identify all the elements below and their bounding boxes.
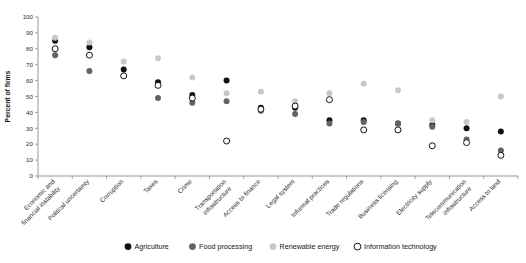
legend-marker (125, 243, 132, 250)
data-point (361, 127, 367, 133)
y-tick-label: 60 (26, 77, 33, 84)
data-point (292, 111, 298, 117)
data-point (189, 95, 195, 101)
y-axis-title: Percent of firms (4, 70, 11, 122)
data-point (52, 46, 58, 52)
y-tick-label: 70 (26, 61, 33, 68)
legend-label: Agriculture (135, 242, 169, 251)
data-point (498, 152, 504, 158)
data-point (464, 140, 470, 146)
x-category-label: Legal system (264, 178, 296, 210)
y-tick-label: 90 (26, 29, 33, 36)
series-information-technology (52, 46, 504, 159)
legend-marker (270, 243, 277, 250)
y-tick-label: 30 (26, 125, 33, 132)
data-point (429, 124, 435, 130)
data-point (326, 90, 332, 96)
x-category-label: Crime (176, 177, 193, 194)
chart-canvas: 0102030405060708090100Percent of firmsEc… (0, 0, 526, 263)
data-point (224, 78, 230, 84)
x-category-label: Corruption (98, 177, 125, 204)
data-point (258, 89, 264, 95)
x-category-label: Access to finance (221, 177, 262, 218)
data-point (326, 121, 332, 127)
data-point (121, 66, 127, 72)
y-tick-label: 40 (26, 109, 33, 116)
legend-marker (189, 243, 196, 250)
data-point (189, 74, 195, 80)
data-point (224, 90, 230, 96)
data-point (464, 119, 470, 125)
data-point (86, 39, 92, 45)
data-point (155, 55, 161, 61)
scatter-chart: 0102030405060708090100Percent of firmsEc… (0, 0, 526, 263)
legend-label: Renewable energy (280, 242, 340, 251)
data-point (326, 97, 332, 103)
data-point (464, 125, 470, 131)
data-point (395, 127, 401, 133)
y-tick-label: 0 (30, 172, 34, 179)
legend-label: Information technology (364, 242, 437, 251)
data-point (86, 68, 92, 74)
x-category-label: Access to land (467, 177, 502, 212)
y-tick-label: 80 (26, 45, 33, 52)
data-point (86, 52, 92, 58)
y-tick-label: 50 (26, 93, 33, 100)
x-category-label: Taxes (142, 178, 159, 195)
data-point (52, 52, 58, 58)
data-point (395, 87, 401, 93)
data-point (361, 119, 367, 125)
y-tick-label: 100 (23, 13, 34, 20)
data-point (498, 94, 504, 100)
data-point (155, 82, 161, 88)
data-point (224, 98, 230, 104)
data-point (224, 138, 230, 144)
series-renewable-energy (52, 35, 504, 125)
y-tick-label: 20 (26, 140, 33, 147)
data-point (395, 121, 401, 127)
data-point (498, 128, 504, 134)
series-agriculture (52, 38, 504, 135)
data-point (258, 106, 264, 112)
data-point (121, 73, 127, 79)
data-point (292, 103, 298, 109)
legend-label: Food processing (199, 242, 252, 251)
data-point (121, 59, 127, 65)
data-point (52, 35, 58, 41)
y-tick-label: 10 (26, 156, 33, 163)
data-point (361, 81, 367, 87)
legend-marker (354, 243, 361, 250)
data-point (429, 117, 435, 123)
series-food-processing (52, 52, 504, 153)
data-point (429, 143, 435, 149)
data-point (155, 95, 161, 101)
